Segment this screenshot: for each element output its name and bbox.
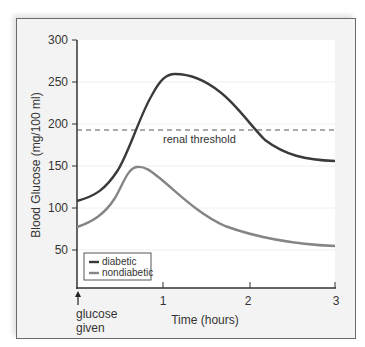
y-axis-title: Blood Glucose (mg/100 ml) bbox=[29, 92, 43, 237]
y-tick-50: 50 bbox=[55, 243, 69, 257]
y-tick-250: 250 bbox=[48, 75, 68, 89]
legend: diabetic nondiabetic bbox=[84, 253, 153, 280]
given-label: given bbox=[76, 321, 105, 335]
glucose-label: glucose bbox=[76, 307, 118, 321]
renal-threshold-label: renal threshold bbox=[163, 133, 236, 145]
y-tick-300: 300 bbox=[48, 33, 68, 47]
arrowhead-icon bbox=[75, 291, 81, 297]
y-tick-200: 200 bbox=[48, 117, 68, 131]
y-tick-100: 100 bbox=[48, 201, 68, 215]
plot-area bbox=[77, 40, 335, 288]
y-tick-150: 150 bbox=[48, 159, 68, 173]
x-tick-1: 1 bbox=[160, 294, 167, 308]
legend-nondiabetic-label: nondiabetic bbox=[102, 267, 153, 278]
x-tick-2: 2 bbox=[245, 294, 252, 308]
x-tick-3: 3 bbox=[333, 294, 340, 308]
legend-diabetic-label: diabetic bbox=[102, 256, 136, 267]
glucose-chart: 300 250 200 150 100 50 1 2 3 Time (hours… bbox=[0, 0, 365, 347]
x-axis-title: Time (hours) bbox=[171, 313, 239, 327]
